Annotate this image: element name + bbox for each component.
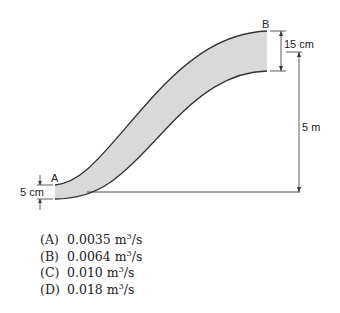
answer-a[interactable]: (A)0.0035 m3/s	[40, 232, 142, 249]
answer-c[interactable]: (C)0.010 m3/s	[40, 265, 142, 282]
answer-b[interactable]: (B)0.0064 m3/s	[40, 249, 142, 266]
answer-choices: (A)0.0035 m3/s (B)0.0064 m3/s (C)0.010 m…	[40, 232, 142, 298]
pipe-diagram: 5 cm A 15 cm B 5 m	[0, 0, 340, 230]
dim-b-label: 15 cm	[284, 38, 314, 50]
pipe	[55, 31, 267, 199]
point-a-label: A	[51, 172, 59, 184]
dim-height-label: 5 m	[302, 121, 320, 133]
dim-a-label: 5 cm	[20, 186, 44, 198]
answer-d[interactable]: (D)0.018 m3/s	[40, 282, 142, 299]
point-b-label: B	[262, 18, 269, 30]
